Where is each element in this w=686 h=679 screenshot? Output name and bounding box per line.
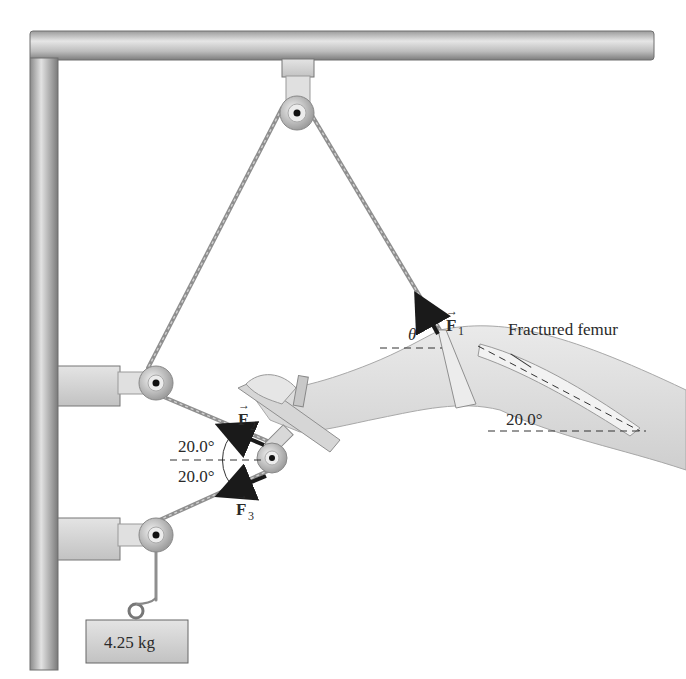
svg-text:→: → bbox=[236, 488, 248, 502]
force-f2-label: F 2 → bbox=[238, 398, 256, 433]
angle-upper-label: 20.0° bbox=[178, 437, 215, 456]
force-f3-label: F 3 → bbox=[236, 488, 254, 523]
svg-text:3: 3 bbox=[248, 509, 254, 523]
vertical-post bbox=[30, 58, 58, 670]
svg-text:F: F bbox=[236, 500, 246, 519]
top-pulley bbox=[280, 59, 314, 130]
svg-text:→: → bbox=[446, 304, 458, 318]
hanging-mass: 4.25 kg bbox=[86, 598, 188, 663]
force-f1-arrow bbox=[418, 298, 438, 334]
theta-label: θ bbox=[408, 325, 416, 344]
traction-diagram: 4.25 kg Fractured femur 20.0° θ 2 bbox=[0, 0, 686, 679]
svg-text:2: 2 bbox=[250, 419, 256, 433]
force-f1-label: F 1 → bbox=[446, 304, 464, 338]
angle-lower-label: 20.0° bbox=[178, 467, 215, 486]
svg-text:F: F bbox=[446, 316, 456, 335]
mass-label: 4.25 kg bbox=[104, 633, 156, 652]
svg-text:→: → bbox=[238, 398, 250, 412]
leg bbox=[238, 326, 686, 473]
upper-wall-pulley bbox=[58, 366, 173, 406]
svg-text:F: F bbox=[238, 410, 248, 429]
top-bar bbox=[30, 31, 654, 60]
svg-text:1: 1 bbox=[458, 324, 464, 338]
fractured-femur-label: Fractured femur bbox=[508, 320, 618, 339]
femur-angle-label: 20.0° bbox=[506, 410, 543, 429]
